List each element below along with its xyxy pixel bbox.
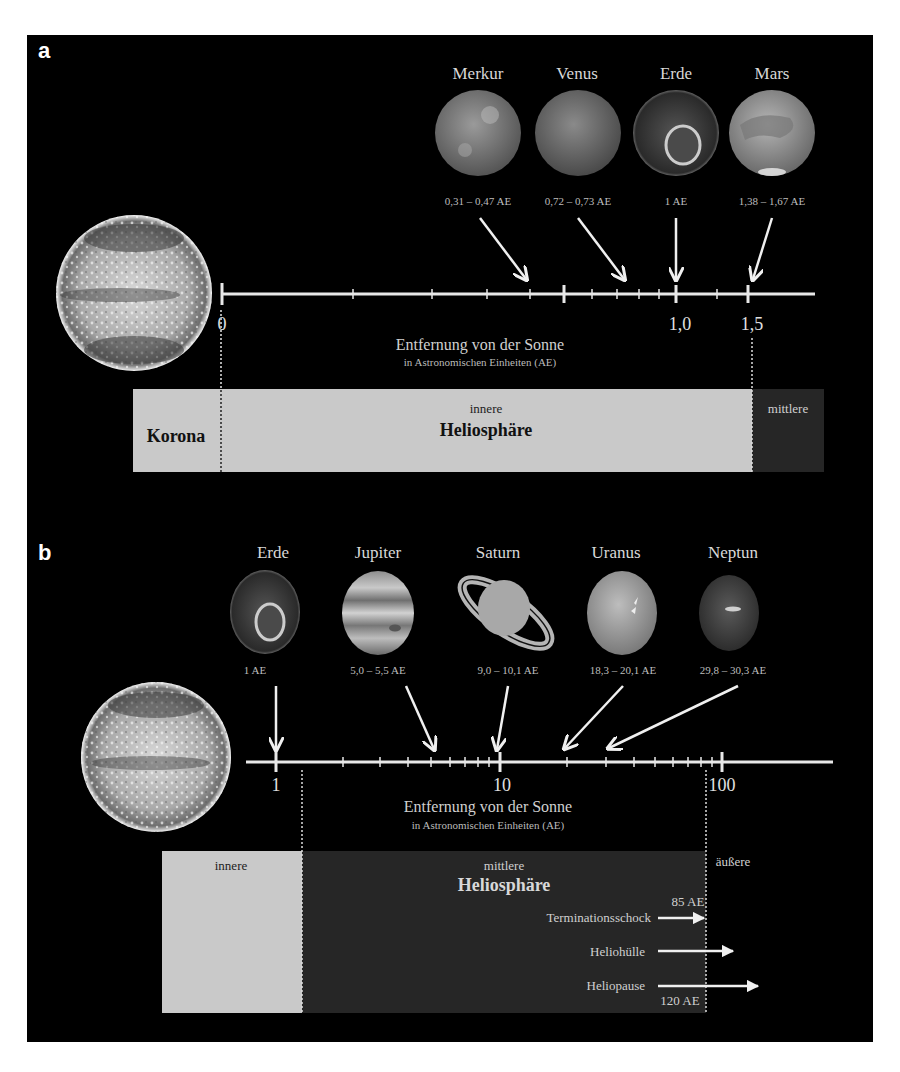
outer-label-b: äußere — [716, 854, 751, 869]
arrow-icon — [406, 686, 434, 749]
inner-label-a: innere — [470, 401, 503, 416]
panel-label-a: a — [38, 38, 51, 63]
planet-erde-a: Erde 1 AE — [633, 64, 719, 207]
planet-venus: Venus 0,72 – 0,73 AE — [535, 64, 621, 207]
distance-neptun: 29,8 – 30,3 AE — [700, 664, 767, 676]
heliopause-value: 120 AE — [660, 993, 699, 1008]
heliosphere-diagram: a Merkur 0,31 – 0,47 AE Venus 0,72 – 0,7… — [0, 0, 900, 1072]
arrow-icon — [753, 218, 772, 279]
neptun-image — [699, 575, 759, 651]
distance-saturn: 9,0 – 10,1 AE — [478, 664, 539, 676]
axis-title-a: Entfernung von der Sonne — [396, 336, 564, 354]
planet-name-merkur: Merkur — [453, 64, 504, 83]
heliosphere-label-b: Heliosphäre — [458, 875, 551, 895]
uranus-image — [587, 571, 657, 655]
distance-uranus: 18,3 – 20,1 AE — [590, 664, 657, 676]
arrow-icon — [480, 218, 526, 279]
planet-name-erde-b: Erde — [257, 543, 289, 562]
distance-axis-a — [222, 283, 815, 305]
inner-heliosphere-box-b — [162, 851, 302, 1013]
heliosheath-label: Heliohülle — [590, 944, 645, 959]
planet-neptun: Neptun 29,8 – 30,3 AE — [699, 543, 766, 676]
termination-shock-value: 85 AE — [672, 894, 705, 909]
planet-arrows-a — [480, 218, 772, 279]
middle-label-b: mittlere — [484, 858, 525, 873]
panel-b: b Erde 1 AE Jupiter 5,0 – 5,5 AE Saturn … — [38, 540, 833, 1013]
saturn-image — [478, 580, 530, 636]
axis-subtitle-a: in Astronomischen Einheiten (AE) — [404, 356, 557, 369]
middle-label-a: mittlere — [768, 401, 809, 416]
tick-label-10: 10 — [493, 775, 511, 795]
sun-image-b — [81, 682, 231, 832]
distance-venus: 0,72 – 0,73 AE — [545, 195, 612, 207]
distance-mars: 1,38 – 1,67 AE — [739, 195, 806, 207]
axis-subtitle-b: in Astronomischen Einheiten (AE) — [412, 819, 565, 832]
jupiter-image — [342, 571, 414, 655]
arrow-icon — [497, 686, 508, 749]
planet-mars: Mars 1,38 – 1,67 AE — [729, 64, 815, 207]
tick-label-1-0: 1,0 — [669, 314, 692, 334]
planet-uranus: Uranus 18,3 – 20,1 AE — [587, 543, 657, 676]
tick-label-1-5: 1,5 — [741, 314, 764, 334]
tick-label-100: 100 — [709, 775, 736, 795]
arrow-icon — [578, 218, 624, 279]
planet-merkur: Merkur 0,31 – 0,47 AE — [435, 64, 521, 207]
arrow-icon — [565, 686, 623, 748]
panel-a: a Merkur 0,31 – 0,47 AE Venus 0,72 – 0,7… — [38, 38, 824, 472]
distance-merkur: 0,31 – 0,47 AE — [445, 195, 512, 207]
sun-image-a — [56, 215, 212, 371]
termination-shock-label: Terminationsschock — [546, 910, 651, 925]
planet-jupiter: Jupiter 5,0 – 5,5 AE — [342, 543, 414, 676]
planet-saturn: Saturn 9,0 – 10,1 AE — [453, 543, 559, 676]
distance-jupiter: 5,0 – 5,5 AE — [350, 664, 406, 676]
planet-name-neptun: Neptun — [708, 543, 759, 562]
planet-name-erde-a: Erde — [660, 64, 692, 83]
planet-name-saturn: Saturn — [476, 543, 521, 562]
planet-name-uranus: Uranus — [591, 543, 640, 562]
inner-label-b: innere — [215, 858, 248, 873]
distance-erde-a: 1 AE — [665, 195, 688, 207]
planet-erde-b: Erde 1 AE — [230, 543, 300, 676]
axis-title-b: Entfernung von der Sonne — [404, 798, 572, 816]
planet-name-mars: Mars — [755, 64, 790, 83]
tick-label-0: 0 — [218, 314, 227, 334]
panel-label-b: b — [38, 540, 51, 565]
distance-erde-b: 1 AE — [244, 664, 267, 676]
korona-label: Korona — [147, 426, 206, 446]
heliopause-label: Heliopause — [587, 978, 646, 993]
planet-arrows-b — [276, 686, 738, 749]
distance-axis-b — [246, 752, 833, 772]
merkur-image — [435, 90, 521, 176]
arrow-icon — [609, 686, 738, 748]
tick-label-1: 1 — [272, 775, 281, 795]
planet-name-venus: Venus — [556, 64, 598, 83]
venus-image — [535, 90, 621, 176]
planet-name-jupiter: Jupiter — [355, 543, 402, 562]
heliosphere-label-a: Heliosphäre — [440, 420, 533, 440]
